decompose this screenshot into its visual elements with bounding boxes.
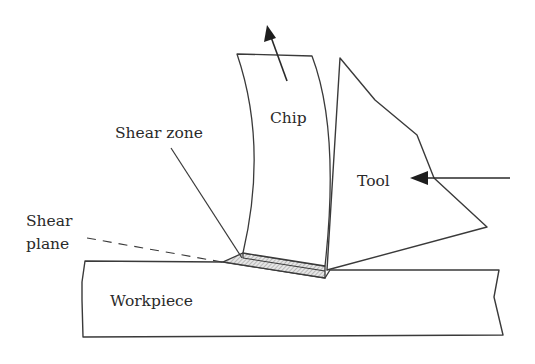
workpiece-label: Workpiece (110, 292, 193, 310)
shear-plane-leader (87, 238, 222, 262)
shear-zone-label: Shear zone (115, 124, 203, 142)
shear-plane-label-line1: Shear (26, 212, 73, 230)
tool (327, 58, 487, 270)
tool-label: Tool (357, 172, 390, 190)
chip (237, 54, 330, 266)
cutting-diagram: Chip Tool Shear zone Shear plane Workpie… (0, 0, 535, 364)
shear-zone-leader (171, 148, 242, 258)
shear-plane-label-line2: plane (26, 235, 69, 253)
chip-label: Chip (270, 109, 307, 127)
tool-feed-arrow (410, 171, 510, 185)
